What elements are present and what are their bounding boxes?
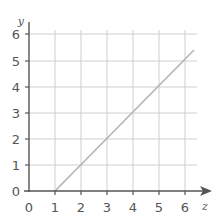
y-tick-label: 2: [12, 132, 20, 147]
y-tick-label: 1: [12, 158, 20, 173]
grid: [29, 30, 197, 191]
y-tick-label: 6: [12, 27, 20, 42]
x-tick-label: 1: [51, 200, 59, 215]
x-tick-label: 5: [155, 200, 163, 215]
chart: 0 1 2 3 4 5 6 0 1 2 3 4 5 6 y z: [0, 0, 220, 224]
x-tick-label: 4: [129, 200, 137, 215]
x-axis-label: z: [201, 200, 208, 213]
data-line: [55, 50, 194, 191]
x-tick-label: 3: [103, 200, 111, 215]
x-tick-label: 2: [77, 200, 85, 215]
y-tick-label: 5: [12, 54, 20, 69]
origin-label: 0: [25, 200, 33, 215]
x-tick-label: 6: [181, 200, 189, 215]
y-tick-label: 4: [12, 80, 20, 95]
y-tick-label: 3: [12, 106, 20, 121]
y-axis-label: y: [17, 15, 25, 28]
y-tick-label: 0: [12, 184, 20, 199]
